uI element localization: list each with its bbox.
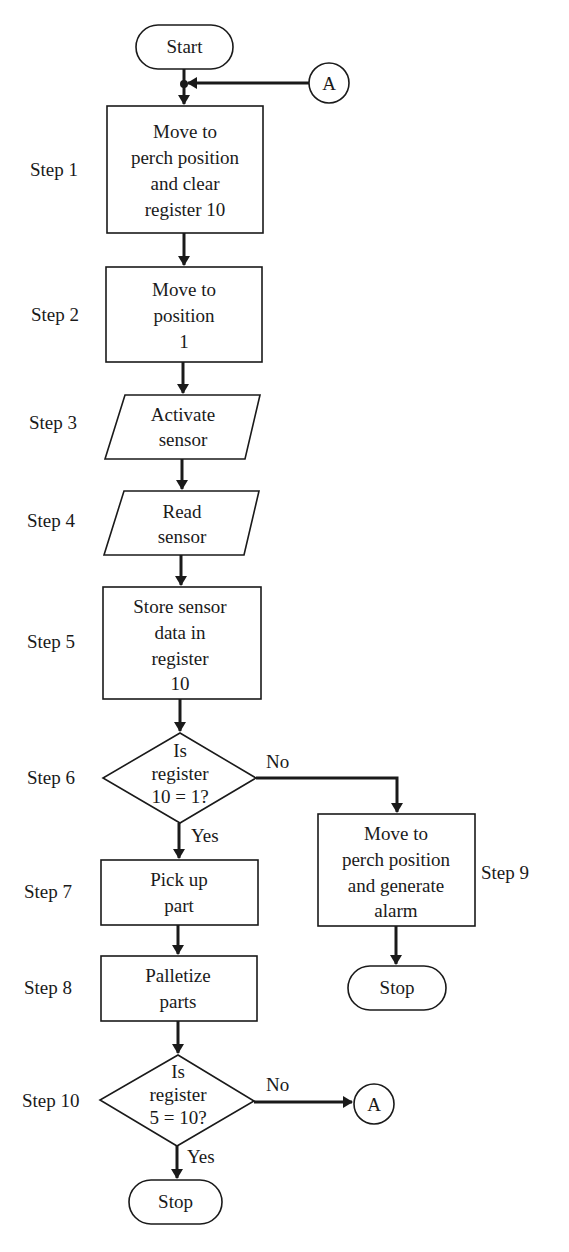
step7-process-box: Pick up part <box>101 860 258 925</box>
svg-text:Start: Start <box>167 36 204 57</box>
start-terminal: Start <box>136 25 233 69</box>
svg-text:1: 1 <box>179 331 189 352</box>
connector-a-top: A <box>309 63 349 103</box>
svg-text:perch position: perch position <box>131 147 240 168</box>
arrow-step6-step9 <box>256 778 397 812</box>
svg-text:sensor: sensor <box>158 526 207 547</box>
flowchart: Start A Step 1 Move to perch position an… <box>0 0 569 1252</box>
step9-process-box: Move to perch position and generate alar… <box>318 814 475 926</box>
svg-text:A: A <box>367 1094 381 1115</box>
step-label-3: Step 3 <box>29 412 77 433</box>
step-label-1: Step 1 <box>30 159 78 180</box>
svg-text:register 10: register 10 <box>145 199 226 220</box>
stop-terminal-end: Stop <box>129 1180 222 1224</box>
svg-text:Pick up: Pick up <box>150 869 208 890</box>
step-label-5: Step 5 <box>27 631 75 652</box>
step6-no-label: No <box>266 751 289 772</box>
step-label-6: Step 6 <box>27 767 75 788</box>
svg-text:register: register <box>152 648 210 669</box>
junction-dot <box>180 80 188 88</box>
svg-text:10: 10 <box>171 673 190 694</box>
step-label-2: Step 2 <box>31 304 79 325</box>
step-label-4: Step 4 <box>27 510 76 531</box>
svg-text:Read: Read <box>162 501 202 522</box>
svg-text:A: A <box>322 73 336 94</box>
step6-decision-diamond: Is register 10 = 1? <box>103 733 256 823</box>
svg-text:Is: Is <box>173 740 187 761</box>
step10-decision-diamond: Is register 5 = 10? <box>100 1055 254 1146</box>
svg-text:parts: parts <box>160 991 197 1012</box>
svg-text:Stop: Stop <box>380 977 415 998</box>
svg-text:Move to: Move to <box>364 823 428 844</box>
svg-text:alarm: alarm <box>374 900 417 921</box>
svg-text:Move to: Move to <box>153 121 217 142</box>
svg-text:part: part <box>164 895 194 916</box>
svg-text:and generate: and generate <box>348 875 445 896</box>
step10-no-label: No <box>266 1074 289 1095</box>
svg-text:register: register <box>150 1084 208 1105</box>
svg-text:and clear: and clear <box>150 173 220 194</box>
step-label-10: Step 10 <box>22 1090 80 1111</box>
svg-text:data in: data in <box>154 622 206 643</box>
svg-text:Store sensor: Store sensor <box>133 596 227 617</box>
svg-text:Stop: Stop <box>158 1191 193 1212</box>
svg-text:sensor: sensor <box>159 429 208 450</box>
step4-io-parallelogram: Read sensor <box>104 491 259 555</box>
step5-process-box: Store sensor data in register 10 <box>103 587 261 699</box>
svg-text:Palletize: Palletize <box>145 965 210 986</box>
svg-text:register: register <box>152 763 210 784</box>
step2-process-box: Move to position 1 <box>106 267 262 362</box>
svg-text:position: position <box>153 305 215 326</box>
step6-yes-label: Yes <box>191 825 219 846</box>
step-label-7: Step 7 <box>24 881 72 902</box>
svg-text:perch position: perch position <box>342 849 451 870</box>
svg-text:Activate: Activate <box>151 404 215 425</box>
step-label-9: Step 9 <box>481 862 529 883</box>
svg-text:10 = 1?: 10 = 1? <box>151 786 208 807</box>
step3-io-parallelogram: Activate sensor <box>105 395 260 459</box>
step10-yes-label: Yes <box>187 1146 215 1167</box>
step1-process-box: Move to perch position and clear registe… <box>107 106 263 233</box>
stop-terminal-alarm: Stop <box>348 966 446 1010</box>
step8-process-box: Palletize parts <box>101 956 257 1021</box>
svg-text:Move to: Move to <box>152 279 216 300</box>
svg-text:Is: Is <box>171 1061 185 1082</box>
svg-text:5 = 10?: 5 = 10? <box>149 1107 206 1128</box>
step-label-8: Step 8 <box>24 977 72 998</box>
connector-a-bottom: A <box>354 1084 394 1124</box>
